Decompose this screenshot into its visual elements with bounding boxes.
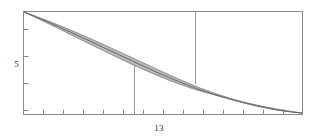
plot-canvas [0,0,316,138]
chart-figure: 5 13 [0,0,316,138]
axes-frame [24,12,303,115]
fit-line [24,12,302,113]
confidence-band [24,12,302,113]
x-axis-ticks [44,110,284,115]
axes-border [24,12,303,115]
y-axis-ticks [24,30,29,111]
y-axis-tick-label: 5 [8,59,19,69]
x-axis-tick-label: 13 [148,123,170,133]
